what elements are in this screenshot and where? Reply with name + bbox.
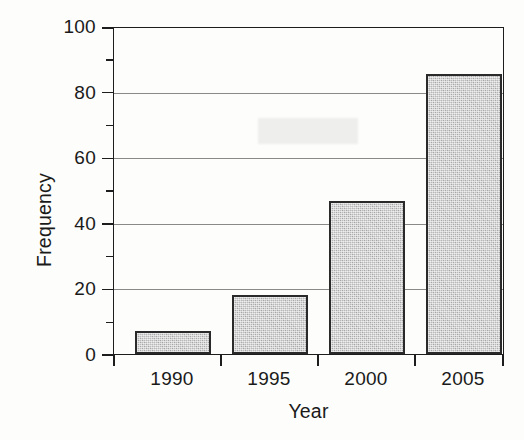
y-tick-major — [102, 92, 113, 94]
x-axis-label: 2005 — [441, 368, 484, 390]
x-tick — [414, 355, 416, 366]
y-tick-minor — [106, 125, 113, 127]
y-axis-label: 20 — [74, 278, 96, 300]
x-tick — [220, 355, 222, 366]
y-axis-label: 60 — [74, 147, 96, 169]
y-tick-major — [102, 354, 113, 356]
bar-1995 — [232, 295, 308, 354]
x-axis-ticks — [113, 355, 504, 367]
y-tick-major — [102, 289, 113, 291]
bar-2000 — [329, 201, 405, 354]
y-axis-label: 40 — [74, 213, 96, 235]
x-axis-label: 2000 — [344, 368, 387, 390]
x-axis-labels: 1990 1995 2000 2005 — [113, 368, 504, 396]
y-axis-ticks — [98, 27, 113, 355]
x-axis-label: 1990 — [150, 368, 193, 390]
bar-1990 — [135, 331, 211, 354]
x-tick — [317, 355, 319, 366]
y-tick-minor — [106, 322, 113, 324]
bar-2005 — [426, 74, 502, 354]
y-tick-major — [102, 223, 113, 225]
y-axis-label: 80 — [74, 82, 96, 104]
bar-chart-figure: Frequency 0 20 40 60 80 100 — [0, 0, 524, 440]
y-tick-major — [102, 158, 113, 160]
y-axis-label: 0 — [85, 344, 96, 366]
x-tick — [502, 355, 504, 366]
y-axis-labels: 0 20 40 60 80 100 — [40, 27, 96, 355]
y-tick-major — [102, 27, 113, 29]
y-tick-minor — [106, 256, 113, 258]
x-axis-title: Year — [113, 400, 504, 423]
y-tick-minor — [106, 190, 113, 192]
x-axis-label: 1995 — [247, 368, 290, 390]
x-tick — [113, 355, 115, 366]
plot-area — [113, 27, 504, 355]
y-tick-minor — [106, 59, 113, 61]
y-axis-label: 100 — [63, 16, 96, 38]
